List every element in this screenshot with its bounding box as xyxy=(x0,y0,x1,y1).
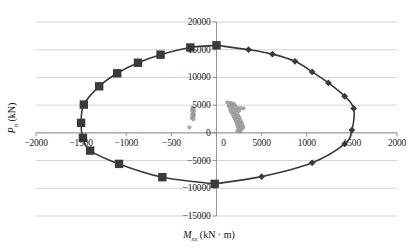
marker-square xyxy=(95,82,103,90)
y-axis-subscript: n xyxy=(12,124,19,127)
x-tick-label: 5000 xyxy=(253,138,271,148)
marker-square xyxy=(80,100,88,108)
x-tick-label: −500 xyxy=(162,138,181,148)
x-tick-label: 2000 xyxy=(388,138,406,148)
marker-square xyxy=(158,173,166,181)
marker-square xyxy=(115,160,123,168)
y-tick-label: 20000 xyxy=(151,17,211,27)
marker-diamond xyxy=(258,173,265,180)
y-tick-label: −5000 xyxy=(151,156,211,166)
y-tick-label: 0 xyxy=(151,128,211,138)
x-tick-label: 1500 xyxy=(343,138,361,148)
y-axis-title: Pn (kN) xyxy=(6,103,19,134)
x-axis-title: Mxx (kN · m) xyxy=(183,229,235,242)
y-axis-symbol: P xyxy=(6,127,17,133)
y-tick-label: 10000 xyxy=(151,72,211,82)
y-axis-units: (kN) xyxy=(6,103,17,124)
x-axis-units: (kN · m) xyxy=(197,229,235,240)
x-tick-label: 0 xyxy=(221,138,226,148)
marker-diamond xyxy=(245,46,252,53)
y-tick-label: −10000 xyxy=(151,183,211,193)
marker-diamond xyxy=(350,105,357,112)
x-tick-label: −2000 xyxy=(24,138,47,148)
y-tick-label: 5000 xyxy=(151,100,211,110)
marker-diamond xyxy=(269,51,276,58)
x-tick-label: 1000 xyxy=(298,138,316,148)
marker-square xyxy=(77,119,85,127)
marker-circle xyxy=(241,106,245,110)
y-tick-label: 15000 xyxy=(151,45,211,55)
marker-diamond xyxy=(292,58,299,65)
x-tick-label: −1500 xyxy=(69,138,92,148)
marker-square xyxy=(113,69,121,77)
marker-circle xyxy=(238,130,242,134)
chart-root: −15000−10000−500005000100001500020000 −2… xyxy=(0,0,419,250)
x-tick-label: −1000 xyxy=(115,138,138,148)
y-tick-label: −15000 xyxy=(151,211,211,221)
marker-square xyxy=(134,59,142,67)
marker-circle xyxy=(191,117,195,121)
